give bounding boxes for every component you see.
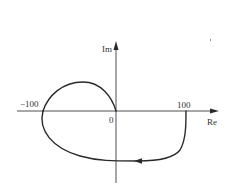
- imag-axis-arrow-icon: [114, 41, 119, 50]
- nyquist-diagram: Im Re 0 −100 100: [0, 0, 235, 196]
- curve-direction-arrow-icon: [134, 158, 142, 163]
- curve-lower-loop: [42, 111, 186, 161]
- real-axis-arrow-icon: [210, 109, 219, 114]
- origin-label: 0: [109, 115, 114, 125]
- scan-speck: [210, 39, 211, 41]
- tick-label-neg-100: −100: [20, 99, 39, 109]
- real-axis-label: Re: [207, 117, 217, 127]
- curve-upper-arc: [43, 82, 116, 111]
- imag-axis-label: Im: [102, 44, 112, 54]
- tick-label-pos-100: 100: [177, 100, 191, 110]
